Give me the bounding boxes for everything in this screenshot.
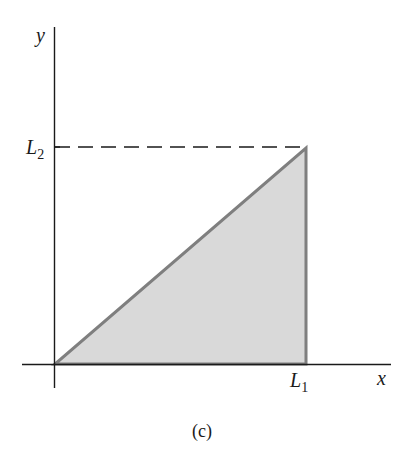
- shaded-triangle-region: [55, 148, 306, 364]
- diagram-canvas: y x L2 L1 (c): [0, 0, 411, 467]
- figure-caption: (c): [192, 421, 212, 442]
- l1-label: L1: [289, 369, 308, 395]
- l1-label-base: L: [289, 369, 301, 391]
- l2-label: L2: [25, 136, 44, 162]
- y-axis-label: y: [34, 24, 45, 47]
- x-axis-label: x: [376, 367, 386, 389]
- l1-label-sub: 1: [301, 380, 308, 395]
- diagram-svg: y x L2 L1 (c): [0, 0, 411, 467]
- l2-label-sub: 2: [37, 147, 44, 162]
- l2-label-base: L: [25, 136, 37, 158]
